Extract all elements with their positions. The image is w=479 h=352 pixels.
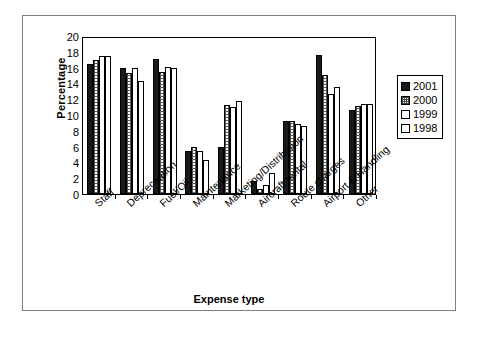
legend-swatch-icon (401, 82, 410, 91)
y-tick-label: 18 (53, 47, 79, 58)
y-tick-label: 12 (53, 95, 79, 106)
y-tick-label: 4 (53, 158, 79, 169)
x-tickmark (180, 195, 181, 199)
y-axis-tick-labels: 02468101214161820 (53, 37, 79, 195)
y-tick-label: 6 (53, 142, 79, 153)
y-tick-label: 16 (53, 63, 79, 74)
bar[interactable] (171, 68, 177, 194)
bar[interactable] (138, 81, 144, 194)
chart-frame: Percentage 02468101214161820 StaffDeprec… (22, 15, 456, 311)
y-tick-label: 8 (53, 126, 79, 137)
x-tickmark (147, 195, 148, 199)
y-tick-label: 0 (53, 190, 79, 201)
chart-legend: 2001200019991998 (397, 75, 443, 139)
legend-label: 1999 (413, 109, 437, 120)
bar[interactable] (367, 104, 373, 194)
x-tickmark (245, 195, 246, 199)
y-tick-label: 2 (53, 174, 79, 185)
legend-label: 2000 (413, 95, 437, 106)
legend-item[interactable]: 1998 (401, 121, 437, 135)
x-tickmark (376, 195, 377, 199)
legend-item[interactable]: 1999 (401, 107, 437, 121)
bar-group (116, 38, 149, 194)
legend-label: 1998 (413, 123, 437, 134)
legend-swatch-icon (401, 96, 410, 105)
legend-swatch-icon (401, 110, 410, 119)
legend-label: 2001 (413, 81, 437, 92)
bar-group (83, 38, 116, 194)
legend-swatch-icon (401, 124, 410, 133)
legend-item[interactable]: 2001 (401, 79, 437, 93)
x-tickmark (343, 195, 344, 199)
bar[interactable] (236, 101, 242, 194)
x-axis-title: Expense type (82, 293, 376, 305)
bar[interactable] (105, 56, 111, 194)
bar[interactable] (334, 87, 340, 194)
x-tickmark (278, 195, 279, 199)
bar-group (181, 38, 214, 194)
y-tick-label: 20 (53, 32, 79, 43)
y-tick-label: 14 (53, 79, 79, 90)
legend-item[interactable]: 2000 (401, 93, 437, 107)
x-axis-category-labels: StaffDepreceationFuel/OilMaintenanceMark… (82, 200, 376, 300)
y-tick-label: 10 (53, 111, 79, 122)
